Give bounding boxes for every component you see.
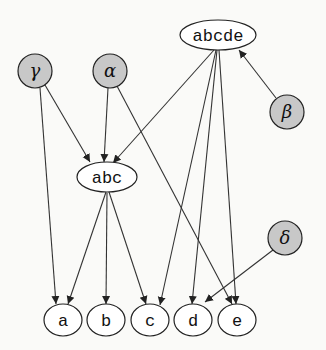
node-label: abc <box>92 169 123 188</box>
node-e: e <box>218 304 256 336</box>
node-label: abcde <box>192 27 243 46</box>
node-gamma: γ <box>18 54 52 88</box>
node-label: b <box>101 312 111 331</box>
node-label: δ <box>280 227 291 248</box>
node-label: α <box>104 60 116 81</box>
edge-alpha-e <box>117 86 232 304</box>
edge-abcde-c <box>160 50 216 305</box>
node-delta: δ <box>268 221 302 255</box>
node-b: b <box>87 304 125 336</box>
node-abcde: abcde <box>180 20 256 50</box>
node-c: c <box>131 304 169 336</box>
node-label: c <box>145 312 155 331</box>
edge-gamma-abc <box>45 85 90 162</box>
edge-delta-d <box>205 250 273 302</box>
node-label: e <box>232 312 242 331</box>
edge-abc-c <box>109 192 146 304</box>
edge-alpha-abc <box>104 88 108 162</box>
edge-abcde-e <box>219 50 236 304</box>
node-beta: β <box>270 95 304 129</box>
node-d: d <box>174 304 212 336</box>
edge-abc-b <box>106 193 107 304</box>
node-a: a <box>44 304 82 336</box>
edge-abc-a <box>68 192 106 304</box>
edge-beta-abcde <box>239 50 276 98</box>
edges <box>40 50 276 305</box>
edge-gamma-a <box>40 88 56 304</box>
node-alpha: α <box>93 54 127 88</box>
node-label: β <box>281 101 292 122</box>
node-label: a <box>58 312 68 331</box>
graph-canvas: abcde γ α β abc δ a b c d e <box>0 0 326 350</box>
node-label: d <box>188 312 198 331</box>
node-label: γ <box>30 60 41 81</box>
node-abc: abc <box>77 162 137 192</box>
edge-abcde-d <box>192 50 217 304</box>
